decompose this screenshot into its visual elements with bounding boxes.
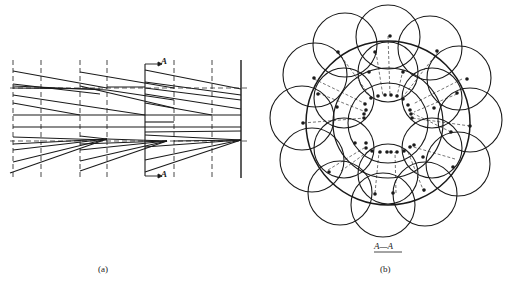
section-arrows	[145, 62, 162, 178]
diagram-canvas	[0, 0, 508, 284]
figure-a-side-view	[10, 60, 249, 178]
section-marker-top: A	[161, 56, 167, 66]
peripheral-circles	[270, 5, 502, 237]
inner-circles	[314, 42, 462, 204]
section-marker-bottom: A	[161, 169, 167, 179]
edge-lines-middle	[13, 122, 241, 140]
edge-points	[301, 34, 472, 196]
edge-lines-upper-group-3	[145, 70, 241, 115]
edge-lines-lower-fan-2	[80, 139, 167, 171]
figure-b-caption: (b)	[380, 264, 391, 274]
figure-b-section-label: A—A	[374, 241, 393, 251]
outer-ring	[306, 41, 470, 205]
figure-a-caption: (a)	[98, 264, 108, 274]
figure-b-section-view	[270, 5, 502, 252]
